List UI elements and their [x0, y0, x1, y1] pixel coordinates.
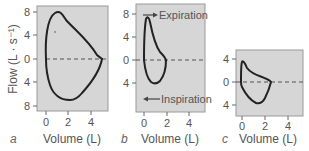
- xtick: 0: [141, 117, 147, 129]
- xtick: 0: [43, 116, 49, 128]
- ytick: 4: [24, 76, 30, 88]
- ytick: 0: [123, 54, 129, 66]
- annotation-expiration: Expiration: [159, 9, 208, 21]
- ytick: 4: [24, 29, 30, 41]
- xtick: 2: [164, 117, 170, 129]
- ytick: 4: [223, 99, 229, 111]
- x-axis-label: Volume (L): [141, 132, 199, 146]
- xtick: 2: [65, 116, 71, 128]
- panel-label-a: a: [10, 132, 17, 146]
- panel-b: 8 4 0 4 0 2 4 Volume (L) b Expiration In…: [121, 4, 212, 146]
- dot: [54, 31, 55, 32]
- panel-c: 4 0 4 0 2 4 Volume (L) c: [222, 50, 303, 146]
- ytick: 4: [223, 53, 229, 65]
- ytick: 8: [123, 8, 129, 20]
- y-axis-label: Flow (L · s⁻¹): [6, 24, 20, 94]
- flow-volume-figure: 8 4 0 4 8 0 2 4 Flow (L · s⁻¹) Volume (L…: [0, 0, 309, 151]
- xtick: 0: [239, 120, 245, 132]
- plot-area-c: [236, 50, 303, 116]
- panel-label-c: c: [222, 132, 228, 146]
- xtick: 4: [88, 116, 94, 128]
- xtick: 4: [186, 117, 192, 129]
- x-axis-label: Volume (L): [239, 132, 297, 146]
- ytick: 4: [123, 31, 129, 43]
- xtick: 4: [285, 120, 291, 132]
- ytick: 0: [223, 76, 229, 88]
- ytick: 0: [24, 53, 30, 65]
- panel-a: 8 4 0 4 8 0 2 4 Flow (L · s⁻¹) Volume (L…: [6, 6, 108, 146]
- ytick: 8: [24, 6, 30, 18]
- annotation-inspiration: Inspiration: [161, 93, 212, 105]
- panel-label-b: b: [121, 132, 128, 146]
- x-axis-label: Volume (L): [43, 132, 101, 146]
- ytick: 8: [24, 100, 30, 112]
- ytick: 4: [123, 77, 129, 89]
- xtick: 2: [262, 120, 268, 132]
